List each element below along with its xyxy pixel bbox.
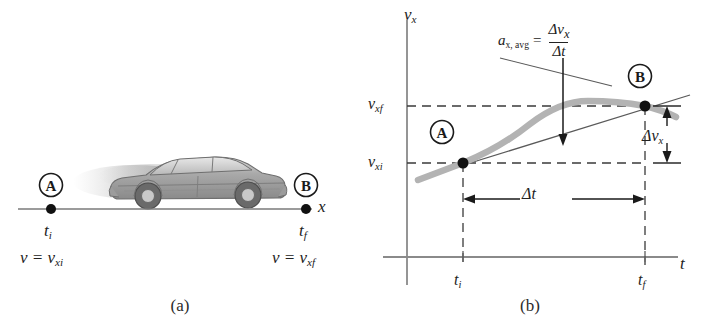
formula-lhs: ax, avg (498, 32, 529, 50)
formula-denominator: Δt (549, 42, 568, 60)
point-b-marker: B (295, 174, 318, 215)
formula-fraction: Δvx Δt (545, 22, 572, 60)
car-wheel-front (135, 183, 161, 209)
formula-leader-line (500, 58, 612, 86)
average-acceleration-formula: ax, avg = Δvx Δt (498, 22, 572, 60)
physics-figure: A B x ti tf v = vxi v = vxf (a) (0, 0, 710, 335)
panel-a: A B x ti tf v = vxi v = vxf (a) (0, 0, 360, 335)
velocity-curve (418, 101, 676, 180)
panel-a-caption: (a) (0, 296, 360, 316)
point-a-marker: A (40, 174, 63, 215)
panel-b-tick-label-vxf: vxf (368, 96, 383, 115)
panel-b-tick-label-ti: ti (454, 272, 461, 291)
svg-text:B: B (301, 178, 311, 194)
panel-b-y-axis-label: vx (404, 6, 417, 25)
car-wheel-rear (235, 182, 261, 208)
panel-a-velocity-final: v = vxf (272, 249, 315, 268)
svg-text:B: B (635, 69, 645, 85)
svg-text:A: A (46, 178, 57, 194)
panel-a-time-label-final: tf (299, 222, 307, 241)
formula-numerator: Δvx (545, 22, 572, 42)
panel-a-time-label-initial: ti (44, 222, 52, 241)
delta-t-arrow (463, 195, 645, 204)
panel-b-caption: (b) (350, 296, 710, 316)
point-a-marker: A (431, 121, 469, 169)
panel-b: A B ax, avg = Δvx Δt vx t vxf vxi ti tf … (350, 0, 710, 335)
panel-a-axis-label-x: x (318, 198, 326, 215)
panel-b-tick-label-tf: tf (638, 272, 645, 291)
panel-b-delta-vx-label: Δvx (642, 128, 663, 147)
panel-b-x-axis-label: t (680, 255, 685, 272)
svg-text:A: A (437, 125, 448, 141)
panel-a-velocity-initial: v = vxi (20, 249, 63, 268)
panel-a-drawing: A B (0, 0, 360, 335)
formula-equals: = (533, 32, 541, 49)
panel-b-tick-label-vxi: vxi (368, 154, 383, 173)
panel-b-delta-t-label: Δt (522, 186, 536, 202)
